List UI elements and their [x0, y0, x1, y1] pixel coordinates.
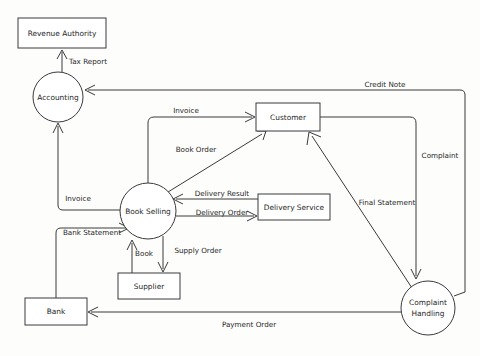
- node-label-customer: Customer: [270, 113, 307, 122]
- node-label-complaint-handling-line2: Handling: [412, 309, 445, 318]
- flow-label-delivery-result: Delivery Result: [195, 189, 250, 198]
- flow-book-order: [168, 131, 266, 192]
- node-label-accounting: Accounting: [37, 93, 79, 102]
- flow-label-supply-order: Supply Order: [174, 246, 221, 255]
- node-label-revenue-authority: Revenue Authority: [28, 29, 97, 38]
- node-label-supplier: Supplier: [134, 282, 165, 291]
- flow-label-bank-statement: Bank Statement: [63, 228, 121, 237]
- flow-label-book-order: Book Order: [176, 145, 217, 154]
- flow-label-invoice-accounting: Invoice: [65, 194, 91, 203]
- flow-label-tax-report: Tax Report: [68, 57, 107, 66]
- data-flow-diagram-canvas: Revenue Authority Accounting Customer Bo…: [0, 0, 480, 356]
- dfd-svg: Revenue Authority Accounting Customer Bo…: [0, 0, 480, 356]
- flow-label-final-statement: Final Statement: [359, 198, 416, 207]
- flow-label-invoice-customer: Invoice: [173, 106, 199, 115]
- node-label-bank: Bank: [47, 307, 66, 316]
- node-customer[interactable]: Customer: [256, 103, 320, 131]
- flow-supply-order: [158, 236, 168, 272]
- node-supplier[interactable]: Supplier: [118, 273, 180, 299]
- node-complaint-handling[interactable]: Complaint Handling: [401, 281, 455, 335]
- node-label-delivery-service: Delivery Service: [264, 203, 325, 212]
- flow-label-book: Book: [135, 249, 154, 258]
- flow-label-delivery-order: Delivery Order: [196, 208, 249, 217]
- node-revenue-authority[interactable]: Revenue Authority: [18, 18, 106, 48]
- node-bank[interactable]: Bank: [25, 298, 87, 325]
- node-delivery-service[interactable]: Delivery Service: [258, 194, 330, 220]
- node-accounting[interactable]: Accounting: [33, 72, 83, 122]
- flow-label-payment-order: Payment Order: [222, 320, 276, 329]
- flow-payment-order: [88, 307, 401, 317]
- flow-label-complaint: Complaint: [422, 151, 459, 160]
- flow-label-credit-note: Credit Note: [365, 80, 406, 89]
- node-book-selling[interactable]: Book Selling: [120, 183, 176, 239]
- node-label-book-selling: Book Selling: [125, 207, 171, 216]
- flow-tax-report: [57, 50, 67, 72]
- node-label-complaint-handling-line1: Complaint: [409, 298, 447, 307]
